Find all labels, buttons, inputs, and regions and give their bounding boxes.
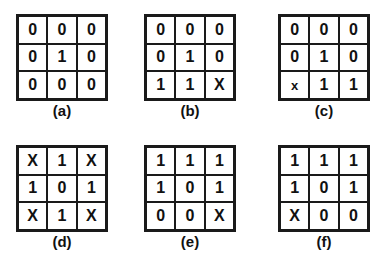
cell: 0 bbox=[205, 44, 234, 72]
cell: 0 bbox=[146, 202, 175, 230]
panel-label: (d) bbox=[16, 234, 108, 250]
cell: 0 bbox=[18, 44, 47, 72]
cell: 1 bbox=[339, 71, 368, 99]
cell: 0 bbox=[77, 16, 106, 44]
cell: X bbox=[18, 147, 47, 175]
cell: 1 bbox=[146, 71, 175, 99]
cell: 0 bbox=[339, 44, 368, 72]
cell: 1 bbox=[280, 175, 309, 203]
panel-e: 1 1 1 1 0 1 0 0 X (e) bbox=[144, 145, 236, 250]
cell: 1 bbox=[309, 147, 338, 175]
panel-label: (c) bbox=[278, 103, 370, 119]
cell: 0 bbox=[309, 175, 338, 203]
grid-e: 1 1 1 1 0 1 0 0 X bbox=[144, 145, 236, 232]
cell: X bbox=[205, 71, 234, 99]
panel-b: 0 0 0 0 1 0 1 1 X (b) bbox=[144, 14, 236, 119]
grid-f: 1 1 1 1 0 1 X 0 0 bbox=[278, 145, 370, 232]
cell: 0 bbox=[280, 16, 309, 44]
panel-d: X 1 X 1 0 1 X 1 X (d) bbox=[16, 145, 108, 250]
cell: 0 bbox=[309, 202, 338, 230]
cell: 1 bbox=[309, 71, 338, 99]
grid-b: 0 0 0 0 1 0 1 1 X bbox=[144, 14, 236, 101]
panel-label: (b) bbox=[144, 103, 236, 119]
cell: X bbox=[77, 202, 106, 230]
cell: 0 bbox=[18, 16, 47, 44]
cell: 1 bbox=[77, 175, 106, 203]
panel-label: (a) bbox=[16, 103, 108, 119]
cell: 1 bbox=[47, 44, 76, 72]
cell: 1 bbox=[339, 175, 368, 203]
cell: 0 bbox=[175, 16, 204, 44]
cell: 0 bbox=[339, 202, 368, 230]
cell: 0 bbox=[339, 16, 368, 44]
grid-d: X 1 X 1 0 1 X 1 X bbox=[16, 145, 108, 232]
cell: 1 bbox=[175, 71, 204, 99]
cell: 0 bbox=[146, 44, 175, 72]
cell: 1 bbox=[309, 44, 338, 72]
cell: 1 bbox=[47, 147, 76, 175]
cell: 1 bbox=[146, 147, 175, 175]
cell: 0 bbox=[146, 16, 175, 44]
panel-f: 1 1 1 1 0 1 X 0 0 (f) bbox=[278, 145, 370, 250]
cell: 1 bbox=[175, 147, 204, 175]
cell: 1 bbox=[205, 175, 234, 203]
cell: 1 bbox=[175, 44, 204, 72]
cell: 0 bbox=[175, 202, 204, 230]
cell: 0 bbox=[18, 71, 47, 99]
cell: X bbox=[77, 147, 106, 175]
cell: 0 bbox=[309, 16, 338, 44]
cell: 0 bbox=[205, 16, 234, 44]
grid-c: 0 0 0 0 1 0 x 1 1 bbox=[278, 14, 370, 101]
cell: X bbox=[18, 202, 47, 230]
panel-c: 0 0 0 0 1 0 x 1 1 (c) bbox=[278, 14, 370, 119]
cell: 0 bbox=[47, 71, 76, 99]
cell: x bbox=[280, 71, 309, 99]
cell: 1 bbox=[280, 147, 309, 175]
cell: 0 bbox=[47, 16, 76, 44]
panel-label: (e) bbox=[144, 234, 236, 250]
cell: X bbox=[280, 202, 309, 230]
panel-a: 0 0 0 0 1 0 0 0 0 (a) bbox=[16, 14, 108, 119]
cell: 0 bbox=[280, 44, 309, 72]
cell: 1 bbox=[339, 147, 368, 175]
cell: 0 bbox=[47, 175, 76, 203]
cell: X bbox=[205, 202, 234, 230]
cell: 0 bbox=[77, 71, 106, 99]
cell: 0 bbox=[77, 44, 106, 72]
cell: 0 bbox=[175, 175, 204, 203]
cell: 1 bbox=[146, 175, 175, 203]
cell: 1 bbox=[47, 202, 76, 230]
panel-label: (f) bbox=[278, 234, 370, 250]
grid-a: 0 0 0 0 1 0 0 0 0 bbox=[16, 14, 108, 101]
cell: 1 bbox=[205, 147, 234, 175]
cell: 1 bbox=[18, 175, 47, 203]
